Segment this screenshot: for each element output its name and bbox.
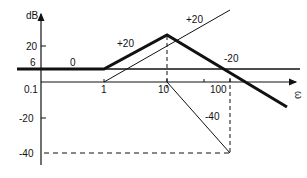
y-tick-label-minus40: -40 (19, 148, 34, 159)
x-tick-label-1: 1 (101, 84, 107, 95)
y-tick-label-minus20: -20 (19, 113, 34, 124)
x-tick-label-10: 10 (158, 84, 170, 95)
y-axis-label: dB (26, 10, 39, 21)
x-tick-label-100: 100 (210, 84, 227, 95)
segment-label-thin-rise: +20 (186, 14, 203, 25)
y-tick-label-20: 20 (26, 41, 38, 52)
segment-label-flat: 0 (70, 57, 76, 68)
composite-asymptote (17, 35, 287, 107)
bode-diagram: dB ω 20 6 -20 -40 0.1 1 10 100 0 +20 +20… (0, 0, 307, 178)
segment-label-thin-fall: -40 (205, 111, 220, 122)
y-tick-label-6: 6 (30, 57, 36, 68)
x-tick-label-0.1: 0.1 (24, 84, 38, 95)
x-axis-label: ω (293, 91, 304, 99)
segment-label-rise: +20 (117, 38, 134, 49)
segment-label-fall: -20 (224, 53, 239, 64)
